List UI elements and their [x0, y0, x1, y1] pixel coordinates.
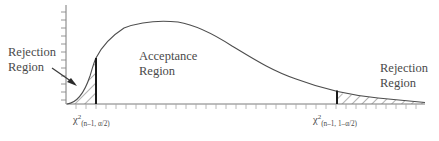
- rejection-region-left-label: Rejection Region: [8, 45, 56, 76]
- acceptance-region-line1: Acceptance: [139, 49, 197, 64]
- chi-square-curve: [67, 21, 425, 104]
- rejection-region-left-line1: Rejection: [8, 45, 56, 60]
- acceptance-region-label: Acceptance Region: [139, 49, 197, 80]
- chart-canvas: [0, 0, 439, 141]
- rejection-region-right-line1: Rejection: [380, 61, 428, 76]
- acceptance-region-line2: Region: [139, 64, 197, 79]
- chi-subscript-lower: (n–1, α/2): [81, 120, 110, 128]
- upper-critical-value-label: χ2(n–1, 1–α/2): [313, 114, 357, 127]
- rejection-region-right-line2: Region: [380, 76, 428, 91]
- x-axis: [66, 104, 425, 109]
- lower-critical-value-label: χ2(n–1, α/2): [73, 114, 110, 127]
- chi-square-rejection-region-diagram: Rejection Region Acceptance Region Rejec…: [0, 0, 439, 141]
- rejection-region-right-label: Rejection Region: [380, 61, 428, 92]
- y-axis: [61, 5, 66, 104]
- right-rejection-shading: [337, 91, 425, 105]
- chi-subscript-upper: (n–1, 1–α/2): [321, 120, 357, 128]
- rejection-region-left-line2: Region: [8, 60, 56, 75]
